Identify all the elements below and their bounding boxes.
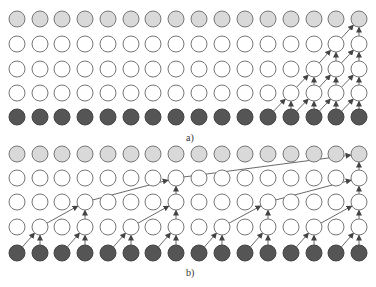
hidden-node: [351, 170, 367, 186]
hidden-node: [191, 170, 207, 186]
hidden-node: [77, 61, 93, 77]
hidden-node: [32, 170, 48, 186]
hidden-node: [328, 219, 344, 235]
input-node: [145, 245, 161, 261]
hidden-node: [191, 219, 207, 235]
hidden-node: [9, 219, 25, 235]
output-node: [9, 146, 25, 162]
hidden-node: [32, 194, 48, 210]
hidden-node: [123, 36, 139, 52]
hidden-node: [168, 61, 184, 77]
output-node: [32, 146, 48, 162]
input-node: [168, 245, 184, 261]
output-node: [306, 146, 322, 162]
output-node: [168, 11, 184, 27]
hidden-node: [283, 219, 299, 235]
input-node: [100, 109, 116, 125]
hidden-node: [100, 170, 116, 186]
input-node: [77, 109, 93, 125]
hidden-node: [260, 85, 276, 101]
output-node: [328, 146, 344, 162]
hidden-node: [9, 194, 25, 210]
panel-b-label: b): [186, 267, 194, 278]
output-node: [54, 146, 70, 162]
hidden-node: [328, 61, 344, 77]
hidden-node: [306, 61, 322, 77]
hidden-node: [54, 219, 70, 235]
hidden-node: [145, 170, 161, 186]
input-node: [283, 245, 299, 261]
input-node: [260, 109, 276, 125]
connection-arrow: [274, 99, 286, 111]
input-node: [351, 109, 367, 125]
hidden-node: [168, 194, 184, 210]
hidden-node: [283, 85, 299, 101]
hidden-node: [214, 194, 230, 210]
input-node: [9, 245, 25, 261]
input-node: [214, 109, 230, 125]
connection-arrow: [341, 25, 353, 38]
hidden-node: [237, 219, 253, 235]
input-node: [214, 245, 230, 261]
hidden-node: [9, 36, 25, 52]
input-node: [237, 245, 253, 261]
hidden-node: [328, 36, 344, 52]
hidden-node: [145, 194, 161, 210]
hidden-node: [54, 61, 70, 77]
input-node: [54, 245, 70, 261]
hidden-node: [328, 170, 344, 186]
hidden-node: [237, 36, 253, 52]
input-node: [100, 245, 116, 261]
hidden-node: [306, 170, 322, 186]
output-node: [260, 11, 276, 27]
hidden-node: [214, 219, 230, 235]
hidden-node: [237, 194, 253, 210]
hidden-node: [145, 61, 161, 77]
hidden-node: [214, 36, 230, 52]
hidden-node: [32, 85, 48, 101]
output-node: [145, 146, 161, 162]
hidden-node: [351, 61, 367, 77]
hidden-node: [306, 194, 322, 210]
input-node: [145, 109, 161, 125]
hidden-node: [77, 219, 93, 235]
connection-arrow: [113, 233, 125, 247]
hidden-node: [54, 36, 70, 52]
connection-arrow: [67, 233, 79, 247]
panel-a-label: a): [186, 132, 194, 143]
output-node: [283, 146, 299, 162]
hidden-node: [168, 36, 184, 52]
output-node: [283, 11, 299, 27]
input-node: [168, 109, 184, 125]
hidden-node: [123, 170, 139, 186]
output-node: [100, 11, 116, 27]
output-node: [123, 146, 139, 162]
hidden-node: [54, 85, 70, 101]
connection-arrow: [204, 233, 216, 247]
input-node: [54, 109, 70, 125]
hidden-node: [191, 85, 207, 101]
output-node: [9, 11, 25, 27]
output-node: [168, 146, 184, 162]
input-node: [32, 245, 48, 261]
hidden-node: [168, 85, 184, 101]
hidden-node: [100, 194, 116, 210]
hidden-node: [77, 170, 93, 186]
hidden-node: [77, 36, 93, 52]
hidden-node: [168, 219, 184, 235]
connection-arrow: [158, 233, 170, 247]
hidden-node: [260, 36, 276, 52]
output-node: [306, 11, 322, 27]
output-node: [214, 11, 230, 27]
output-node: [54, 11, 70, 27]
hidden-node: [237, 61, 253, 77]
hidden-node: [32, 219, 48, 235]
hidden-node: [351, 219, 367, 235]
hidden-node: [100, 61, 116, 77]
hidden-node: [306, 36, 322, 52]
output-node: [260, 146, 276, 162]
hidden-node: [351, 36, 367, 52]
input-node: [191, 245, 207, 261]
output-node: [100, 146, 116, 162]
connection-arrow: [319, 99, 330, 111]
